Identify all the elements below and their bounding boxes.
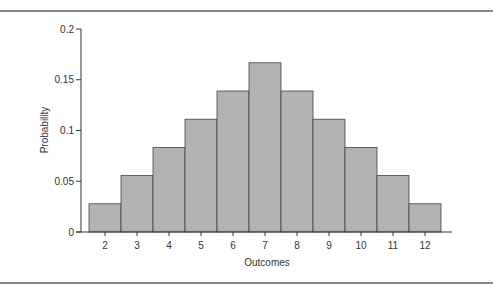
x-tick-label: 4 (166, 240, 172, 251)
x-tick-label: 10 (355, 240, 367, 251)
x-tick-label: 11 (388, 240, 399, 251)
bars (89, 63, 441, 232)
bar-2 (89, 204, 121, 232)
x-tick-label: 7 (262, 240, 268, 251)
bar-10 (345, 147, 377, 232)
y-tick-label: 0 (68, 227, 74, 238)
x-axis-title: Outcomes (244, 257, 290, 268)
bar-3 (121, 176, 153, 232)
x-tick-label: 12 (419, 240, 431, 251)
y-tick-label: 0.1 (60, 125, 74, 136)
bar-5 (185, 119, 217, 232)
x-tick-label: 2 (102, 240, 108, 251)
x-tick-label: 5 (198, 240, 204, 251)
y-tick-label: 0.2 (60, 24, 74, 35)
histogram-chart: 2345678910111200.050.10.150.2 Outcomes P… (0, 0, 500, 288)
bar-11 (377, 176, 409, 232)
bar-12 (409, 204, 441, 232)
x-tick-label: 8 (294, 240, 300, 251)
bar-6 (217, 91, 249, 232)
bar-7 (249, 63, 281, 232)
y-tick-label: 0.05 (55, 176, 75, 187)
bar-8 (281, 91, 313, 232)
x-tick-label: 9 (326, 240, 332, 251)
x-tick-label: 6 (230, 240, 236, 251)
bar-4 (153, 147, 185, 232)
x-tick-label: 3 (134, 240, 140, 251)
y-axis-title: Probability (39, 107, 50, 154)
y-tick-label: 0.15 (55, 74, 75, 85)
bar-9 (313, 119, 345, 232)
